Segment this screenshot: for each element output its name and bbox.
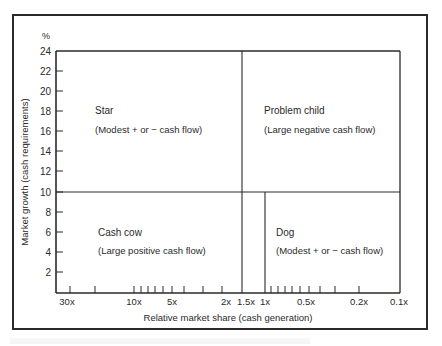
- y-axis-title: Market growth (cash requirements): [19, 98, 30, 245]
- y-tick-label: 10: [40, 187, 52, 198]
- y-tick-label: 18: [40, 106, 52, 117]
- y-tick-label: 22: [40, 66, 52, 77]
- y-unit-label: %: [42, 31, 50, 41]
- x-tick-label: 30x: [59, 296, 75, 307]
- x-tick-label: 2x: [221, 296, 231, 307]
- y-tick-label: 20: [40, 86, 52, 97]
- quadrant-problem-child-desc: (Large negative cash flow): [264, 124, 375, 135]
- quadrant-dog-desc: (Modest + or − cash flow): [276, 245, 383, 256]
- quadrant-problem-child-title: Problem child: [264, 105, 325, 116]
- x-axis-ticks: 30x10x5x2x1.5x1x0.5x0.2x0.1x: [59, 296, 408, 307]
- x-tick-label: 1x: [260, 296, 270, 307]
- x-tick-label: 0.2x: [350, 296, 368, 307]
- quadrant-star-title: Star: [95, 105, 114, 116]
- y-axis-ticks: 24222018161412108642: [40, 46, 63, 278]
- x-tick-label: 1.5x: [237, 296, 255, 307]
- x-axis-title: Relative market share (cash generation): [144, 312, 313, 323]
- quadrant-star-desc: (Modest + or − cash flow): [95, 124, 202, 135]
- x-tick-label: 5x: [167, 296, 177, 307]
- y-tick-label: 24: [40, 46, 52, 57]
- x-tick-label: 0.5x: [297, 296, 315, 307]
- y-tick-label: 8: [45, 207, 51, 218]
- x-tick-label: 10x: [126, 296, 142, 307]
- y-tick-label: 16: [40, 126, 52, 137]
- quadrant-cash-cow-desc: (Large positive cash flow): [98, 245, 206, 256]
- quadrant-dog-title: Dog: [276, 227, 294, 238]
- x-axis-minor-ticks: [70, 286, 359, 293]
- x-tick-label: 0.1x: [390, 296, 408, 307]
- y-tick-label: 4: [45, 247, 51, 258]
- y-tick-label: 12: [40, 166, 52, 177]
- y-tick-label: 14: [40, 146, 52, 157]
- y-tick-label: 2: [45, 267, 51, 278]
- caption-strip: [10, 338, 310, 344]
- quadrant-cash-cow-title: Cash cow: [98, 227, 143, 238]
- y-tick-label: 6: [45, 227, 51, 238]
- bcg-matrix-chart: 24222018161412108642 30x10x5x2x1.5x1x0.5…: [0, 0, 442, 346]
